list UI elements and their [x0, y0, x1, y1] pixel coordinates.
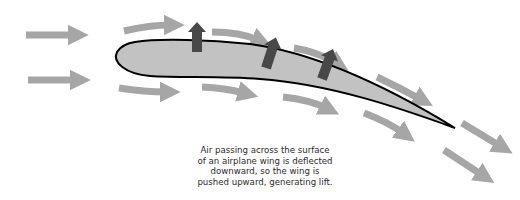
- airflow-arrow-upper-1: [124, 25, 170, 31]
- diagram-caption: Air passing across the surface of an air…: [190, 145, 340, 187]
- caption-line-3: downward, so the wing is: [190, 166, 340, 177]
- airflow-arrow-upper-2: [212, 32, 258, 40]
- caption-line-2: of an airplane wing is deflected: [190, 156, 340, 167]
- airflow-arrow-downwash-2: [444, 150, 482, 175]
- caption-line-4: pushed upward, generating lift.: [190, 177, 340, 188]
- airflow-arrow-lower-3: [283, 97, 326, 108]
- airflow-arrow-lower-1: [119, 88, 166, 92]
- airflow-arrow-lower-4: [364, 113, 403, 133]
- wing-airfoil: [116, 40, 455, 128]
- airflow-arrow-lower-2: [202, 87, 244, 93]
- airflow-arrow-downwash-1: [462, 123, 500, 146]
- caption-line-1: Air passing across the surface: [190, 145, 340, 156]
